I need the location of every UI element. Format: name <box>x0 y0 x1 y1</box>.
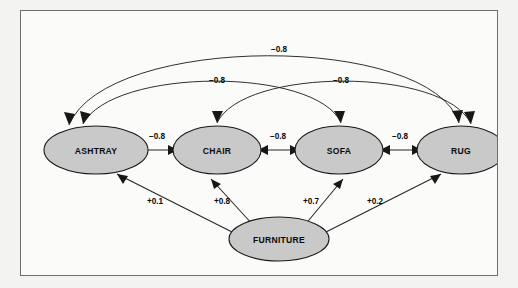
node-rug[interactable]: RUG <box>417 126 497 174</box>
node-sofa-label: SOFA <box>327 146 351 156</box>
edge-ashtray-rug-path <box>69 56 459 125</box>
node-ashtray[interactable]: ASHTRAY <box>44 126 148 174</box>
edge-sofa-rug: −0.8 <box>380 132 422 156</box>
edge-furniture-chair-arrowhead <box>211 179 221 189</box>
edge-furniture-ashtray-label: +0.1 <box>147 197 164 206</box>
diagram-canvas: −0.8 −0.8 −0.8 +0.1 <box>0 0 518 288</box>
node-sofa[interactable]: SOFA <box>295 126 383 174</box>
edge-sofa-rug-label: −0.8 <box>392 132 409 141</box>
edge-chair-sofa: −0.8 <box>258 132 300 156</box>
edge-ashtray-rug-label: −0.8 <box>271 45 288 54</box>
diagram-frame: −0.8 −0.8 −0.8 +0.1 <box>20 10 498 276</box>
edge-ashtray-sofa-arrowhead-left <box>80 111 91 124</box>
edge-ashtray-sofa-label: −0.8 <box>209 76 226 85</box>
node-rug-label: RUG <box>451 146 471 156</box>
edge-ashtray-rug-arrowhead-left <box>64 112 75 125</box>
edge-furniture-sofa-label: +0.7 <box>303 197 320 206</box>
edge-furniture-sofa: +0.7 <box>303 179 343 226</box>
edge-furniture-chair-label: +0.8 <box>214 197 231 206</box>
edge-chair-rug-path <box>217 81 471 124</box>
edge-furniture-rug-label: +0.2 <box>367 197 384 206</box>
node-chair[interactable]: CHAIR <box>173 126 261 174</box>
edge-chair-rug-arrowhead-left <box>212 111 223 123</box>
node-furniture[interactable]: FURNITURE <box>229 217 329 261</box>
edge-furniture-sofa-arrowhead <box>333 179 343 189</box>
semantic-network-graph: −0.8 −0.8 −0.8 +0.1 <box>21 11 497 275</box>
node-ashtray-label: ASHTRAY <box>75 146 118 156</box>
edge-ashtray-sofa-path <box>83 81 341 124</box>
node-chair-label: CHAIR <box>203 146 232 156</box>
node-furniture-label: FURNITURE <box>253 235 305 245</box>
edge-ashtray-rug-arrowhead-right <box>452 110 463 123</box>
edge-ashtray-chair-label: −0.8 <box>149 132 166 141</box>
edge-chair-sofa-label: −0.8 <box>270 132 287 141</box>
edge-furniture-chair: +0.8 <box>211 179 254 226</box>
edge-ashtray-sofa-arrowhead-right <box>334 111 345 123</box>
edge-chair-rug-label: −0.8 <box>333 76 350 85</box>
